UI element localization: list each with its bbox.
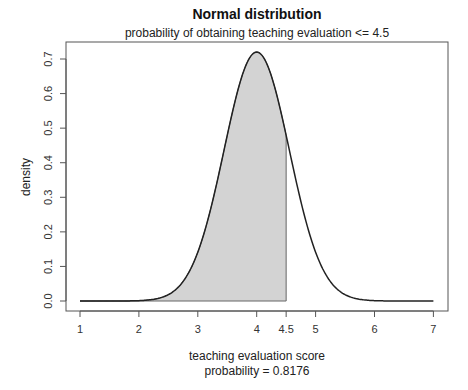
- y-tick-label: 0.2: [42, 224, 54, 239]
- y-tick-label: 0.5: [42, 121, 54, 136]
- y-tick-label: 0.0: [42, 293, 54, 308]
- probability-label: probability = 0.8176: [204, 364, 309, 378]
- y-tick-label: 0.7: [42, 51, 54, 66]
- chart-title: Normal distribution: [192, 6, 321, 22]
- x-tick-label: 3: [195, 323, 201, 335]
- x-tick-label: 2: [136, 323, 142, 335]
- x-axis: 12344.5567: [77, 311, 437, 335]
- y-tick-label: 0.6: [42, 86, 54, 101]
- x-axis-label: teaching evaluation score: [189, 349, 325, 363]
- normal-distribution-chart: Normal distribution probability of obtai…: [0, 0, 468, 390]
- x-tick-label: 1: [77, 323, 83, 335]
- x-tick-label: 4.5: [279, 323, 294, 335]
- shaded-area: [80, 52, 286, 301]
- y-tick-label: 0.4: [42, 155, 54, 170]
- chart-subtitle: probability of obtaining teaching evalua…: [125, 26, 390, 40]
- x-tick-label: 7: [430, 323, 436, 335]
- x-tick-label: 4: [254, 323, 260, 335]
- x-tick-label: 6: [371, 323, 377, 335]
- y-tick-label: 0.3: [42, 190, 54, 205]
- y-axis-label: density: [19, 158, 33, 196]
- x-tick-label: 5: [313, 323, 319, 335]
- y-axis: 0.00.10.20.30.40.50.60.7: [42, 51, 66, 308]
- y-tick-label: 0.1: [42, 259, 54, 274]
